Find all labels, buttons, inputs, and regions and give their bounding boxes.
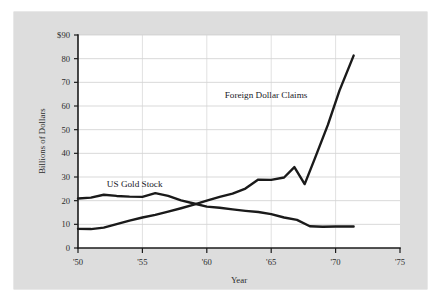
x-tick-label: '75 [395,257,405,267]
y-axis-tick-labels: 01020304050607080$90 [57,30,70,253]
y-tick-label: 40 [61,148,70,158]
y-tick-label: 30 [61,172,70,182]
y-axis-title: Billions of Dollars [37,108,47,174]
x-tick-label: '55 [137,257,147,267]
series-label-foreign-dollar-claims: Foreign Dollar Claims [225,90,308,100]
y-tick-label: 80 [61,54,70,64]
y-tick-label: 0 [66,243,70,253]
y-tick-label: $90 [57,30,70,40]
x-tick-label: '60 [202,257,212,267]
y-tick-label: 50 [61,125,70,135]
x-tick-label: '65 [266,257,276,267]
chart-figure: 01020304050607080$90 '50'55'60'65'70'75 … [0,0,441,304]
x-axis-tick-labels: '50'55'60'65'70'75 [73,257,405,267]
y-tick-label: 60 [61,101,70,111]
plot-area-background [78,35,400,248]
chart-canvas: 01020304050607080$90 '50'55'60'65'70'75 … [0,0,441,304]
series-label-us-gold-stock: US Gold Stock [107,179,163,189]
y-tick-label: 70 [61,77,70,87]
y-tick-label: 10 [61,219,70,229]
x-tick-label: '70 [331,257,341,267]
y-tick-label: 20 [61,196,70,206]
x-axis-title: Year [231,275,247,285]
x-tick-label: '50 [73,257,83,267]
